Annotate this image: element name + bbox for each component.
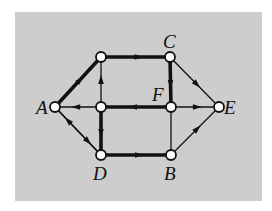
node-F xyxy=(166,102,176,112)
edge-D-A xyxy=(55,107,101,155)
arrow-icon xyxy=(193,104,202,110)
edge-Q-D xyxy=(98,107,104,155)
arrow-icon xyxy=(98,75,104,84)
node-label-B: B xyxy=(164,163,176,184)
node-D xyxy=(96,150,106,160)
arrow-icon xyxy=(134,54,143,60)
node-label-A: A xyxy=(34,97,48,118)
graph-diagram: ACFEDB xyxy=(0,0,272,211)
edge-Q-A xyxy=(55,104,101,110)
edge-C-F xyxy=(168,57,174,107)
node-Q xyxy=(96,102,106,112)
node-A xyxy=(50,102,60,112)
node-label-D: D xyxy=(92,163,107,184)
node-E xyxy=(214,102,224,112)
node-C xyxy=(165,52,175,62)
edge-D-B xyxy=(101,152,171,158)
edge-P-C xyxy=(101,54,170,60)
edge-F-Q xyxy=(101,104,171,110)
node-P xyxy=(96,52,106,62)
edge-C-E xyxy=(170,57,219,107)
arrow-icon xyxy=(98,129,104,138)
node-label-E: E xyxy=(223,97,236,118)
edge-A-P xyxy=(55,57,101,107)
edge-F-E xyxy=(171,104,219,110)
edge-B-E xyxy=(171,107,219,155)
node-B xyxy=(166,150,176,160)
node-label-F: F xyxy=(151,84,164,105)
arrow-icon xyxy=(135,152,144,158)
edge-Q-P xyxy=(98,57,104,107)
node-label-C: C xyxy=(163,31,176,52)
arrow-icon xyxy=(71,104,80,110)
arrow-icon xyxy=(168,80,174,89)
arrow-icon xyxy=(128,104,137,110)
